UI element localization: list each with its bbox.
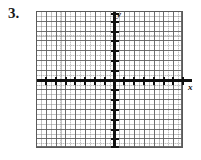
coordinate-grid-frame [36,11,183,148]
problem-number: 3. [8,6,19,21]
y-axis-label: y [117,10,121,19]
worksheet-problem: 3. [0,0,201,160]
major-gridlines [37,12,182,147]
x-axis-label: x [188,83,193,92]
